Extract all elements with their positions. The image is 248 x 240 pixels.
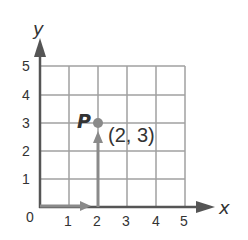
y-tick-1: 1 — [22, 171, 30, 187]
point-coords-label: (2, 3) — [108, 124, 155, 146]
origin-label: 0 — [26, 209, 34, 225]
y-tick-2: 2 — [22, 143, 30, 159]
coordinate-plane: y x 0 1 2 3 4 5 1 2 3 4 5 P (2, 3) — [0, 0, 248, 240]
right-arrow-icon — [80, 201, 91, 211]
point-name-label: P — [77, 110, 91, 132]
y-tick-3: 3 — [22, 115, 30, 131]
x-tick-3: 3 — [122, 213, 130, 229]
x-tick-1: 1 — [64, 213, 72, 229]
path-arrows — [40, 131, 103, 211]
up-arrow-icon — [93, 131, 103, 143]
x-tick-5: 5 — [180, 213, 188, 229]
x-axis-arrow-icon — [196, 201, 215, 213]
y-axis-label: y — [32, 18, 44, 39]
x-axis-label: x — [218, 197, 230, 218]
y-tick-4: 4 — [22, 87, 30, 103]
x-tick-4: 4 — [152, 213, 160, 229]
x-tick-2: 2 — [93, 213, 101, 229]
y-axis-arrow-icon — [34, 38, 46, 57]
point-p — [93, 118, 103, 128]
y-tick-5: 5 — [22, 58, 30, 74]
